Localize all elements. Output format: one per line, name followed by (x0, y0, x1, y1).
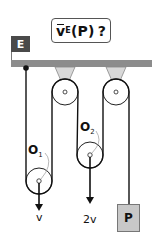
load-box-p: P (117, 204, 140, 232)
fixed-pulley-1-axle (63, 90, 67, 94)
o1-subscript: 1 (38, 151, 42, 159)
fixed-pulley-2-axle (114, 90, 118, 94)
pulley-label-o1: O1 (28, 143, 43, 159)
frame-label-e: E (11, 36, 30, 52)
rope-anchor (23, 65, 29, 71)
question-title: vE(P)? (51, 18, 111, 43)
o2-letter: O (80, 120, 90, 134)
movable-pulley-o1-axle (37, 179, 41, 183)
ceiling-bar (11, 60, 152, 67)
title-argument: (P) (71, 23, 95, 39)
title-velocity-symbol: v (56, 23, 65, 39)
o1-letter: O (28, 143, 38, 157)
velocity-arrow-o1-head (35, 204, 43, 211)
velocity-label-o2: 2v (83, 213, 97, 226)
movable-pulley-o2-axle (88, 153, 92, 157)
pulley-label-o2: O2 (80, 120, 95, 136)
title-question-mark: ? (98, 23, 106, 39)
o2-subscript: 2 (90, 128, 94, 136)
velocity-label-o1: v (36, 211, 43, 224)
velocity-arrow-o2-head (86, 197, 94, 204)
